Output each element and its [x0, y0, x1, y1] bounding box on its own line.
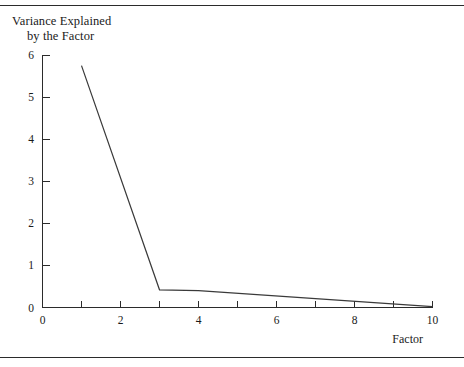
x-axis-ticks: [43, 301, 433, 308]
y-tick-label-4: 4: [28, 133, 34, 145]
x-axis-tick-labels: 0 2 4 6 8 10: [40, 314, 439, 326]
x-tick-label-6: 6: [274, 314, 280, 326]
scree-curve: [82, 66, 433, 307]
x-axis-title: Factor: [392, 332, 423, 346]
y-tick-label-6: 6: [28, 49, 34, 61]
x-tick-label-2: 2: [118, 314, 124, 326]
y-axis-ticks: [43, 55, 50, 308]
figure-page: Variance Explainedby the Factor 0 1 2: [0, 0, 464, 367]
plot-area: 0 1 2 3 4 5 6: [0, 0, 464, 357]
bottom-divider-rule: [0, 357, 464, 358]
scree-plot-figure: Variance Explainedby the Factor 0 1 2: [0, 0, 464, 357]
x-tick-label-8: 8: [352, 314, 358, 326]
y-tick-label-3: 3: [28, 175, 34, 187]
x-tick-label-4: 4: [196, 314, 202, 326]
y-tick-label-0: 0: [28, 302, 34, 314]
x-tick-label-10: 10: [427, 314, 439, 326]
y-tick-label-1: 1: [28, 259, 34, 271]
y-axis-tick-labels: 0 1 2 3 4 5 6: [28, 49, 34, 314]
y-tick-label-2: 2: [28, 217, 34, 229]
x-tick-label-0: 0: [40, 314, 46, 326]
y-tick-label-5: 5: [28, 91, 34, 103]
